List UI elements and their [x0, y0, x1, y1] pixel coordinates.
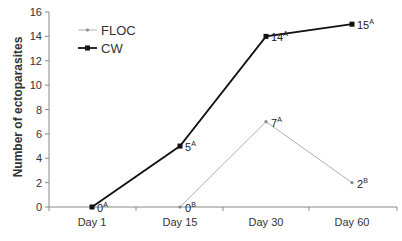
data-label: 2B [357, 177, 368, 190]
y-axis: 0246810121416 [30, 6, 49, 213]
legend: FLOCCW [78, 23, 136, 56]
y-tick-label: 4 [36, 152, 42, 164]
y-tick-label: 16 [30, 6, 42, 18]
legend-label-floc: FLOC [101, 23, 136, 38]
x-tick-label: Day 60 [335, 216, 370, 228]
data-label: 0B [185, 201, 196, 214]
series-layer: 0B7A2B0A5A14A15A [90, 18, 375, 214]
data-label: 7A [271, 116, 282, 129]
series-line-cw [92, 24, 352, 207]
y-tick-label: 12 [30, 55, 42, 67]
y-tick-label: 0 [36, 201, 42, 213]
data-label: 14A [271, 30, 288, 43]
y-tick-label: 2 [36, 177, 42, 189]
y-tick-label: 10 [30, 79, 42, 91]
data-label: 0A [97, 201, 108, 214]
line-chart: 0246810121416 Day 1Day 15Day 30Day 60 0B… [0, 0, 402, 241]
y-tick-label: 14 [30, 30, 42, 42]
x-tick-label: Day 30 [249, 216, 284, 228]
legend-label-cw: CW [101, 41, 123, 56]
data-label: 15A [357, 18, 374, 31]
x-tick-label: Day 1 [78, 216, 107, 228]
y-tick-label: 6 [36, 128, 42, 140]
data-label: 5A [185, 140, 196, 153]
x-tick-label: Day 15 [163, 216, 198, 228]
series-line-floc [180, 122, 352, 207]
y-tick-label: 8 [36, 104, 42, 116]
